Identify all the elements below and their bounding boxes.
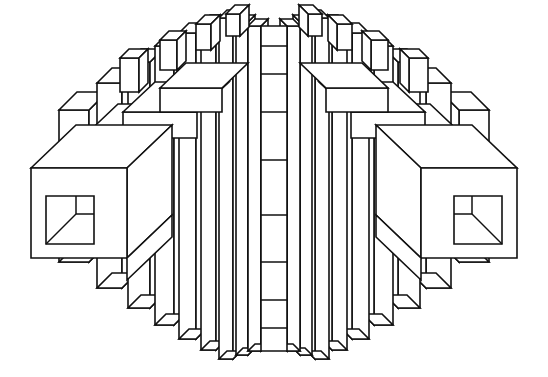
right-cap-block-3 xyxy=(400,49,428,92)
right-cap-front-0 xyxy=(308,14,322,36)
left-cap-front-2 xyxy=(160,40,177,70)
left-cap-front-0 xyxy=(226,14,240,36)
right-cap-block-2 xyxy=(362,31,388,70)
right-slab-front-3 xyxy=(326,88,388,112)
right-column-front-0 xyxy=(287,26,300,351)
right-cap-front-2 xyxy=(371,40,388,70)
left-slab-front-3 xyxy=(160,88,222,112)
right-cap-block-0 xyxy=(299,5,322,36)
left-cap-block-1 xyxy=(196,15,220,50)
left-cap-block-0 xyxy=(226,5,249,36)
center-panel-layer xyxy=(261,26,287,351)
line-art-illustration xyxy=(0,0,548,377)
left-cap-front-1 xyxy=(196,24,211,50)
artwork-canvas xyxy=(0,0,548,377)
right-cap-front-1 xyxy=(337,24,352,50)
left-column-front-0 xyxy=(248,26,261,351)
right-cap-front-3 xyxy=(409,58,428,92)
left-cap-block-3 xyxy=(120,49,148,92)
left-cap-front-3 xyxy=(120,58,139,92)
left-cap-block-2 xyxy=(160,31,186,70)
right-cap-block-1 xyxy=(328,15,352,50)
